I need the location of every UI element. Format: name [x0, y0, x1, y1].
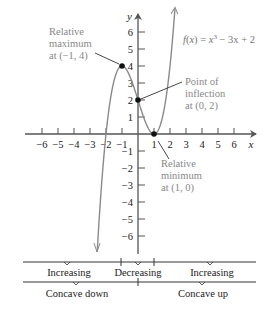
- relative-maximum-point: [119, 63, 125, 69]
- interval-decreasing: Decreasing: [114, 267, 162, 278]
- x-tick-label: −3: [84, 139, 95, 150]
- svg-text:at (0, 2): at (0, 2): [185, 100, 218, 112]
- svg-text:Relative: Relative: [161, 158, 196, 169]
- relative-minimum-point: [151, 131, 157, 137]
- y-tick-label: −5: [122, 214, 133, 225]
- x-tick-label: −4: [68, 139, 80, 150]
- x-tick-label: −5: [52, 139, 63, 150]
- x-tick-label: 5: [215, 139, 220, 150]
- x-tick-label: 6: [231, 139, 236, 150]
- concavity-interval-line: Concave down Concave up: [23, 278, 256, 299]
- y-tick-label: −4: [122, 197, 134, 208]
- x-tick-label: 3: [183, 139, 188, 150]
- x-axis: −6 −5 −4 −3 −2 −1 1 2 3 4 5 6 x: [25, 128, 256, 150]
- svg-text:Relative: Relative: [49, 26, 84, 37]
- relative-maximum-annotation: Relative maximum at (−1, 4): [49, 26, 119, 64]
- y-axis: 6 5 4 3 2 1 −1 −2 −3 −4 −5 −6 y: [122, 10, 145, 254]
- x-tick-label: 2: [167, 139, 172, 150]
- interval-concave-up: Concave up: [178, 288, 228, 299]
- svg-text:inflection: inflection: [185, 88, 226, 99]
- interval-increasing-right: Increasing: [190, 267, 234, 278]
- interval-concave-down: Concave down: [46, 288, 109, 299]
- y-tick-label: 2: [128, 95, 133, 106]
- svg-text:Point of: Point of: [185, 76, 219, 87]
- y-tick-label: −1: [122, 146, 133, 157]
- x-tick-label: 4: [199, 139, 205, 150]
- y-axis-label: y: [126, 10, 132, 22]
- cubic-function-diagram: −6 −5 −4 −3 −2 −1 1 2 3 4 5 6 x 6 5: [0, 0, 271, 314]
- x-tick-label: −6: [36, 139, 47, 150]
- svg-text:at (1, 0): at (1, 0): [161, 182, 194, 194]
- y-tick-label: 4: [128, 61, 134, 72]
- inflection-point: [135, 97, 141, 103]
- inflection-annotation: Point of inflection at (0, 2): [141, 76, 226, 112]
- function-curve: [97, 8, 175, 252]
- y-tick-label: −3: [122, 180, 133, 191]
- x-tick-label: 1: [151, 139, 156, 150]
- y-tick-label: −2: [122, 163, 133, 174]
- y-tick-label: −6: [122, 231, 133, 242]
- svg-text:minimum: minimum: [161, 170, 202, 181]
- y-tick-label: 5: [128, 44, 133, 55]
- interval-increasing-left: Increasing: [47, 267, 91, 278]
- y-tick-label: 1: [128, 112, 133, 123]
- relative-minimum-annotation: Relative minimum at (1, 0): [158, 141, 202, 194]
- monotonic-interval-line: Increasing Decreasing Increasing: [23, 258, 256, 278]
- svg-text:maximum: maximum: [49, 38, 92, 49]
- y-tick-label: 6: [128, 27, 133, 38]
- x-axis-label: x: [248, 138, 254, 150]
- svg-text:at (−1, 4): at (−1, 4): [49, 50, 88, 62]
- function-label: f(x) = x3 − 3x + 2: [183, 33, 255, 46]
